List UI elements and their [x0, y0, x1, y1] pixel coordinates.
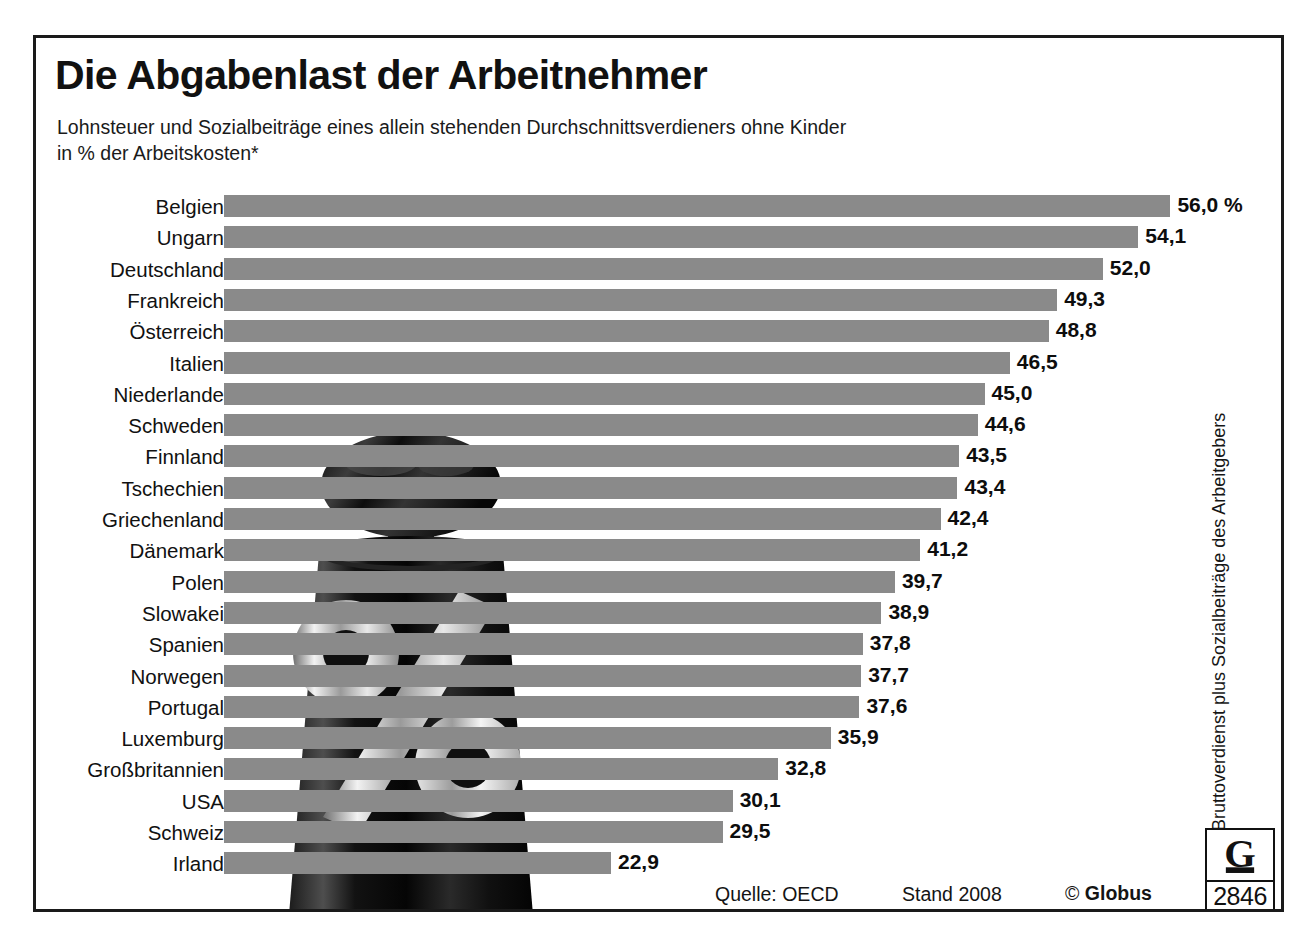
bar-category-label: Deutschland	[33, 258, 224, 282]
bar-fill	[224, 508, 941, 530]
bar-row: Polen39,7	[36, 569, 1284, 600]
bar-row: Frankreich49,3	[36, 287, 1284, 318]
bar-row: Großbritannien32,8	[36, 756, 1284, 787]
bar	[224, 633, 863, 655]
bar	[224, 852, 611, 874]
bar	[224, 414, 978, 436]
bar-value-label: 30,1	[740, 788, 781, 812]
bar-category-label: Schweden	[33, 414, 224, 438]
bar-category-label: Tschechien	[33, 477, 224, 501]
bar-fill	[224, 539, 920, 561]
bar-category-label: Irland	[33, 852, 224, 876]
bar-category-label: Finnland	[33, 445, 224, 469]
bar-fill	[224, 289, 1057, 311]
bar-category-label: Österreich	[33, 320, 224, 344]
bar-fill	[224, 258, 1103, 280]
bar	[224, 445, 959, 467]
bar-category-label: USA	[33, 790, 224, 814]
bar-row: Griechenland42,4	[36, 506, 1284, 537]
bar	[224, 195, 1170, 217]
bar	[224, 508, 941, 530]
bar-row: Slowakei38,9	[36, 600, 1284, 631]
bar-value-label: 35,9	[838, 725, 879, 749]
bar	[224, 727, 831, 749]
bar	[224, 383, 985, 405]
bar-value-label: 44,6	[985, 412, 1026, 436]
bar	[224, 571, 895, 593]
bar-fill	[224, 665, 861, 687]
bar	[224, 289, 1057, 311]
bar-row: Italien46,5	[36, 350, 1284, 381]
bar	[224, 602, 881, 624]
vertical-footnote-text: *Bruttoverdienst plus Sozialbeiträge des…	[1209, 413, 1230, 838]
bar-fill	[224, 821, 723, 843]
bar-chart-plot: Belgien56,0 %Ungarn54,1Deutschland52,0Fr…	[36, 38, 1284, 912]
bar-value-label: 49,3	[1064, 287, 1105, 311]
bar-category-label: Norwegen	[33, 665, 224, 689]
bar	[224, 665, 861, 687]
bar-fill	[224, 226, 1138, 248]
bar-category-label: Ungarn	[33, 226, 224, 250]
bar-row: Deutschland52,0	[36, 256, 1284, 287]
infographic-page: Die Abgabenlast der Arbeitnehmer Lohnste…	[0, 0, 1313, 943]
bar-fill	[224, 477, 957, 499]
bar-value-label: 56,0 %	[1177, 193, 1242, 217]
bar-value-label: 52,0	[1110, 256, 1151, 280]
bar-row: USA30,1	[36, 788, 1284, 819]
bar-fill	[224, 727, 831, 749]
bar-row: Finnland43,5	[36, 443, 1284, 474]
bar-row: Ungarn54,1	[36, 224, 1284, 255]
bar	[224, 821, 723, 843]
bar-row: Schweiz29,5	[36, 819, 1284, 850]
bar-value-label: 54,1	[1145, 224, 1186, 248]
bar-value-label: 29,5	[730, 819, 771, 843]
brand-name: Globus	[1085, 882, 1152, 904]
vertical-footnote: *Bruttoverdienst plus Sozialbeiträge des…	[1224, 298, 1254, 838]
bar-value-label: 48,8	[1056, 318, 1097, 342]
bar-fill	[224, 414, 978, 436]
bar-fill	[224, 352, 1010, 374]
bar-value-label: 37,7	[868, 663, 909, 687]
bar-value-label: 42,4	[948, 506, 989, 530]
bar-fill	[224, 320, 1049, 342]
bar-row: Portugal37,6	[36, 694, 1284, 725]
bar-category-label: Frankreich	[33, 289, 224, 313]
bar-row: Spanien37,8	[36, 631, 1284, 662]
stand-label: Stand 2008	[902, 883, 1002, 906]
bar-fill	[224, 602, 881, 624]
bar-category-label: Niederlande	[33, 383, 224, 407]
bar	[224, 696, 859, 718]
bar	[224, 258, 1103, 280]
bar-category-label: Luxemburg	[33, 727, 224, 751]
bar-row: Norwegen37,7	[36, 663, 1284, 694]
bar-value-label: 41,2	[927, 537, 968, 561]
bar-fill	[224, 758, 778, 780]
bar	[224, 320, 1049, 342]
bar-row: Irland22,9	[36, 850, 1284, 881]
bar-row: Niederlande45,0	[36, 381, 1284, 412]
bar-value-label: 37,6	[866, 694, 907, 718]
globus-logo: G 2846	[1205, 828, 1275, 912]
chart-frame: Die Abgabenlast der Arbeitnehmer Lohnste…	[33, 35, 1284, 912]
bar-row: Tschechien43,4	[36, 475, 1284, 506]
bar-fill	[224, 445, 959, 467]
source-label: Quelle: OECD	[715, 883, 839, 906]
bar	[224, 758, 778, 780]
bar-category-label: Slowakei	[33, 602, 224, 626]
bar-row: Schweden44,6	[36, 412, 1284, 443]
bar-row: Dänemark41,2	[36, 537, 1284, 568]
bar-fill	[224, 790, 733, 812]
bar-category-label: Portugal	[33, 696, 224, 720]
bar-value-label: 32,8	[785, 756, 826, 780]
bar-fill	[224, 633, 863, 655]
bar-value-label: 38,9	[888, 600, 929, 624]
bar	[224, 352, 1010, 374]
bar-category-label: Spanien	[33, 633, 224, 657]
bar-value-label: 46,5	[1017, 350, 1058, 374]
bar	[224, 226, 1138, 248]
bar-category-label: Polen	[33, 571, 224, 595]
bar	[224, 790, 733, 812]
bar-fill	[224, 383, 985, 405]
bar-fill	[224, 195, 1170, 217]
bar-category-label: Griechenland	[33, 508, 224, 532]
